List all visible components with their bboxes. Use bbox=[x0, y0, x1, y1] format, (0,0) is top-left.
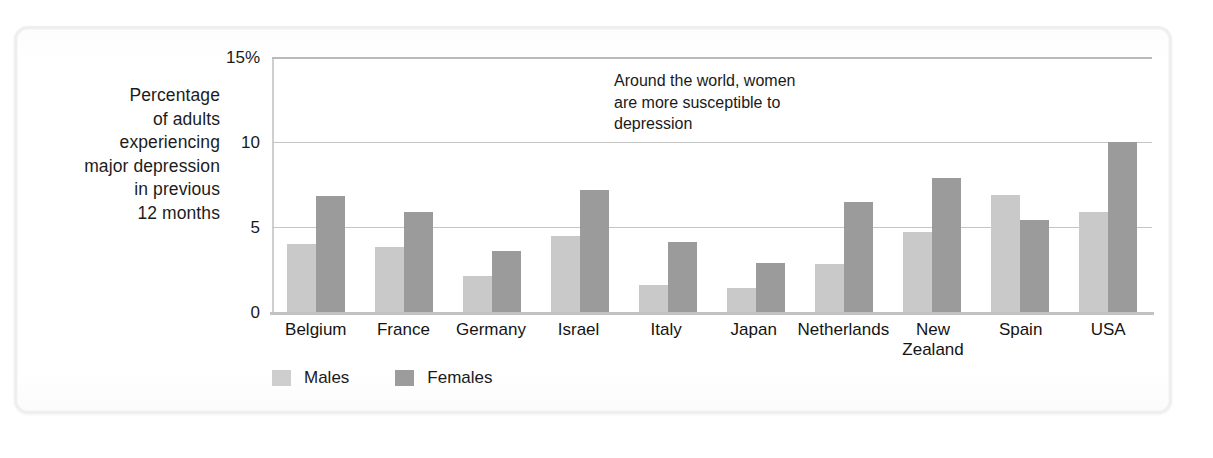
legend-swatch-females-icon bbox=[395, 370, 414, 386]
legend-item-males: Males bbox=[272, 368, 349, 388]
x-axis-label-text: Netherlands bbox=[798, 320, 890, 340]
x-axis-label-belgium: Belgium bbox=[272, 320, 360, 360]
x-axis-label-text: Spain bbox=[977, 320, 1065, 340]
x-axis-label-italy: Italy bbox=[622, 320, 710, 360]
x-axis-label-text: USA bbox=[1064, 320, 1152, 340]
chart-legend: Males Females bbox=[272, 368, 539, 388]
x-axis-label-text: Israel bbox=[535, 320, 623, 340]
y-axis-title-line: in previous bbox=[28, 178, 220, 202]
bar-males bbox=[815, 264, 844, 312]
chart-annotation-line: Around the world, women bbox=[614, 70, 874, 92]
chart-annotation: Around the world, women are more suscept… bbox=[614, 70, 874, 135]
bar-males bbox=[551, 236, 580, 313]
bar-males bbox=[463, 276, 492, 312]
x-axis-label-germany: Germany bbox=[447, 320, 535, 360]
x-axis-label-text: Germany bbox=[447, 320, 535, 340]
x-axis-label-spain: Spain bbox=[977, 320, 1065, 360]
bar-group-usa bbox=[1064, 57, 1152, 312]
bar-males bbox=[1079, 212, 1108, 312]
x-axis-label-text: France bbox=[360, 320, 448, 340]
y-axis-title: Percentage of adults experiencing major … bbox=[28, 84, 220, 225]
bar-females bbox=[1108, 142, 1137, 312]
legend-item-females: Females bbox=[395, 368, 492, 388]
bar-males bbox=[375, 247, 404, 312]
x-axis-label-new-zealand: NewZealand bbox=[889, 320, 977, 360]
bar-females bbox=[1020, 220, 1049, 312]
x-axis-label-israel: Israel bbox=[535, 320, 623, 360]
bar-group-germany bbox=[448, 57, 536, 312]
bar-females bbox=[316, 196, 345, 312]
bar-males bbox=[903, 232, 932, 312]
y-axis-title-line: major depression bbox=[28, 155, 220, 179]
x-axis-label-japan: Japan bbox=[710, 320, 798, 360]
y-axis-title-line: 12 months bbox=[28, 202, 220, 226]
x-axis-label-text-second-line: Zealand bbox=[889, 340, 977, 360]
bar-group-belgium bbox=[272, 57, 360, 312]
bar-group-spain bbox=[976, 57, 1064, 312]
legend-swatch-males-icon bbox=[272, 370, 291, 386]
bar-females bbox=[668, 242, 697, 312]
bar-females bbox=[404, 212, 433, 312]
x-axis-label-usa: USA bbox=[1064, 320, 1152, 360]
chart-page: Percentage of adults experiencing major … bbox=[0, 0, 1213, 458]
bar-males bbox=[639, 285, 668, 312]
x-axis-label-france: France bbox=[360, 320, 448, 360]
x-axis-label-text: New bbox=[889, 320, 977, 340]
bar-females bbox=[932, 178, 961, 312]
legend-label-males: Males bbox=[304, 368, 349, 388]
bar-females bbox=[844, 202, 873, 313]
x-axis-label-text: Belgium bbox=[272, 320, 360, 340]
x-axis-line bbox=[270, 312, 1154, 315]
bar-males bbox=[991, 195, 1020, 312]
legend-label-females: Females bbox=[427, 368, 492, 388]
chart-annotation-line: depression bbox=[614, 113, 874, 135]
chart-annotation-line: are more susceptible to bbox=[614, 92, 874, 114]
y-axis-title-line: experiencing bbox=[28, 131, 220, 155]
x-axis-labels: Belgium France Germany Israel Italy Japa… bbox=[272, 320, 1152, 360]
y-axis-title-line: of adults bbox=[28, 108, 220, 132]
bar-males bbox=[727, 288, 756, 312]
bar-males bbox=[287, 244, 316, 312]
x-axis-label-text: Japan bbox=[710, 320, 798, 340]
bar-group-france bbox=[360, 57, 448, 312]
x-axis-label-text: Italy bbox=[622, 320, 710, 340]
bar-females bbox=[756, 263, 785, 312]
bar-group-new-zealand bbox=[888, 57, 976, 312]
bar-group-israel bbox=[536, 57, 624, 312]
bar-females bbox=[492, 251, 521, 312]
bar-females bbox=[580, 190, 609, 312]
x-axis-label-netherlands: Netherlands bbox=[798, 320, 890, 360]
y-axis-title-line: Percentage bbox=[28, 84, 220, 108]
